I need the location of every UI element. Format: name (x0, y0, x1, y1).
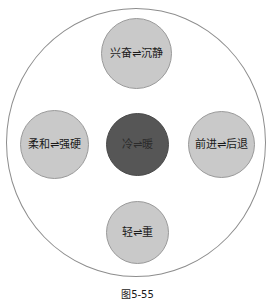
node-circle-right: 前进⇌后退 (188, 111, 255, 178)
figure-caption: 图5-55 (0, 286, 275, 301)
node-label-bottom: 轻⇌重 (122, 227, 153, 238)
node-circle-center: 冷⇌暖 (106, 113, 169, 176)
node-circle-bottom: 轻⇌重 (106, 201, 169, 264)
node-label-left: 柔和⇌强硬 (28, 139, 81, 150)
node-label-right: 前进⇌后退 (195, 139, 248, 150)
node-circle-top: 兴奋⇌沉静 (101, 18, 172, 89)
node-label-top: 兴奋⇌沉静 (110, 48, 163, 59)
node-circle-left: 柔和⇌强硬 (20, 110, 89, 179)
node-label-center: 冷⇌暖 (122, 139, 153, 150)
